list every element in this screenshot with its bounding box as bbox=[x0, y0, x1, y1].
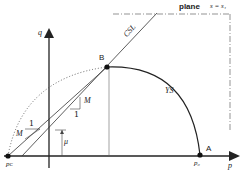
slope-m-lower-label: M bbox=[16, 130, 23, 138]
slope-one-upper-label: 1 bbox=[74, 111, 79, 119]
slope-one-lower-label: 1 bbox=[29, 120, 34, 128]
point-b-label: B bbox=[99, 54, 104, 62]
point-pc-marker bbox=[5, 153, 10, 158]
mu-label: μ bbox=[64, 138, 68, 146]
yield-surface-curve bbox=[107, 67, 200, 155]
q-axis bbox=[44, 28, 54, 168]
slope-triangle-lower bbox=[25, 129, 40, 139]
point-a-marker bbox=[197, 152, 202, 157]
point-b-marker bbox=[104, 64, 109, 69]
plane-label: plane bbox=[179, 3, 200, 11]
plane-equation: s = s₁ bbox=[210, 3, 226, 10]
ys-label: YS bbox=[165, 87, 173, 95]
pc-label: pᴄ bbox=[6, 161, 13, 168]
slope-m-upper-label: M bbox=[84, 97, 91, 105]
csl-parallel-line bbox=[8, 67, 107, 156]
csl-line bbox=[22, 13, 157, 156]
p0-label: p₀ bbox=[194, 160, 200, 167]
p-axis bbox=[4, 151, 240, 161]
point-a-label: A bbox=[206, 145, 211, 153]
p-axis-label: p bbox=[228, 162, 232, 170]
q-axis-label: q bbox=[38, 29, 42, 37]
